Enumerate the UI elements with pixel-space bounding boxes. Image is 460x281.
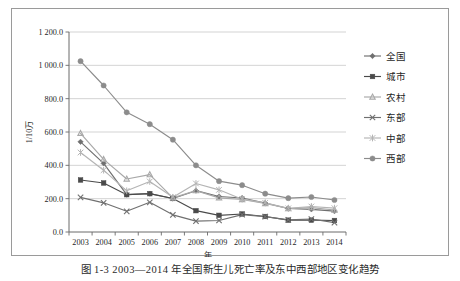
y-axis-title: 1/10万: [25, 121, 34, 144]
line-chart: 0.0200.0400.0600.0800.01 000.01 200.0 20…: [12, 9, 450, 257]
x-tick-label: 2003: [72, 238, 88, 247]
data-point: [193, 163, 198, 168]
data-point: [78, 149, 84, 156]
y-tick-label: 1 200.0: [38, 28, 63, 37]
figure-caption: 图 1-3 2003—2014 年全国新生儿死亡率及东中西部地区变化趋势: [0, 261, 460, 276]
y-tick-label: 600.0: [45, 128, 63, 137]
y-tick-label: 400.0: [45, 161, 63, 170]
data-point: [147, 122, 152, 127]
data-point: [147, 178, 153, 185]
x-tick-label: 2014: [326, 238, 342, 247]
y-axis-title-label: 1/10万: [25, 121, 34, 144]
figure-container: 0.0200.0400.0600.0800.01 000.01 200.0 20…: [0, 0, 460, 281]
x-tick-label: 2006: [142, 238, 158, 247]
x-tick-label: 2008: [188, 238, 204, 247]
series-line-3: [81, 197, 335, 222]
legend-label-2: 农村: [386, 92, 406, 103]
data-point: [147, 191, 152, 196]
data-point: [147, 200, 152, 205]
legend-label-4: 中部: [386, 133, 406, 144]
data-point: [194, 208, 199, 213]
data-point: [78, 178, 83, 183]
y-tick-label: 1 000.0: [38, 61, 63, 70]
data-point: [217, 213, 222, 218]
data-point: [78, 59, 83, 64]
data-point: [101, 83, 106, 88]
x-tick-label: 2011: [257, 238, 273, 247]
data-point: [240, 183, 245, 188]
series-line-4: [81, 153, 335, 209]
data-point: [101, 167, 107, 174]
series-line-0: [81, 142, 335, 211]
legend-marker-5: [370, 156, 375, 161]
x-tick-label: 2009: [211, 238, 227, 247]
legend-marker-0: [370, 53, 375, 58]
chart-frame: 0.0200.0400.0600.0800.01 000.01 200.0 20…: [11, 8, 449, 256]
data-point: [101, 181, 106, 186]
y-tick-label: 800.0: [45, 95, 63, 104]
y-tick-label: 0.0: [53, 228, 63, 237]
y-tick-labels: 0.0200.0400.0600.0800.01 000.01 200.0: [38, 28, 63, 237]
x-tick-labels: 2003200420052006200720082009201020112012…: [72, 238, 342, 247]
data-point: [332, 197, 337, 202]
x-tick-label: 2005: [119, 238, 135, 247]
series-line-5: [81, 61, 335, 200]
data-point: [309, 194, 314, 199]
legend-label-0: 全国: [386, 51, 406, 62]
x-tick-label: 2010: [234, 238, 250, 247]
legend-marker-1: [370, 74, 375, 79]
data-point: [170, 137, 175, 142]
x-tick-label: 2013: [303, 238, 319, 247]
legend: 全国城市农村东部中部西部: [364, 51, 406, 165]
axes: [66, 32, 347, 236]
data-point: [124, 209, 129, 214]
data-point: [216, 179, 221, 184]
x-tick-label: 2012: [280, 238, 296, 247]
legend-label-3: 东部: [386, 112, 406, 123]
data-point: [124, 110, 129, 115]
data-point: [286, 196, 291, 201]
y-tick-label: 200.0: [45, 195, 63, 204]
legend-label-5: 西部: [386, 153, 406, 164]
x-axis-title-label: 年: [204, 250, 212, 257]
data-point: [263, 191, 268, 196]
x-axis-title: 年: [204, 250, 212, 257]
x-tick-label: 2007: [165, 238, 181, 247]
series-markers: [78, 59, 338, 226]
legend-label-1: 城市: [386, 71, 406, 82]
data-point: [124, 187, 130, 194]
x-tick-label: 2004: [95, 238, 111, 247]
